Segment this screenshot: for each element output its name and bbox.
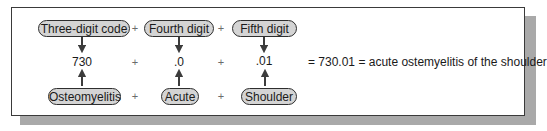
value-fourth-digit: .0 [164, 55, 194, 69]
pill-osteomyelitis: Osteomyelitis [48, 88, 121, 105]
plus-sign: + [129, 21, 141, 35]
plus-sign: + [215, 55, 227, 69]
plus-sign: + [129, 89, 141, 103]
pill-acute: Acute [161, 88, 199, 105]
pill-three-digit-code: Three-digit code [38, 20, 130, 37]
plus-sign: + [215, 21, 227, 35]
equation-result: = 730.01 = acute ostemyelitis of the sho… [308, 55, 547, 69]
value-fifth-digit: .01 [249, 54, 279, 68]
plus-sign: + [215, 89, 227, 103]
pill-shoulder: Shoulder [241, 88, 297, 105]
plus-sign: + [129, 55, 141, 69]
pill-fifth-digit: Fifth digit [232, 20, 297, 37]
value-three-digit: 730 [62, 55, 102, 69]
pill-fourth-digit: Fourth digit [144, 20, 214, 37]
